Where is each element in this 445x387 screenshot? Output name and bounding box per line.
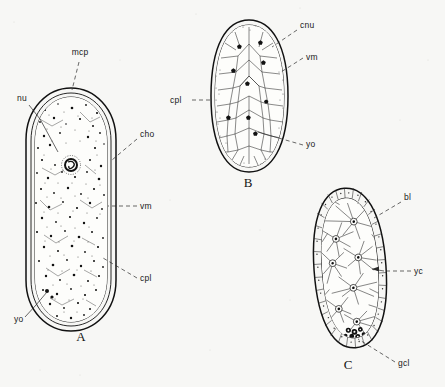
leader-gcl xyxy=(358,339,395,362)
panel-c xyxy=(309,186,392,353)
leader-yo-b xyxy=(282,139,303,145)
panel-b: cnu vm cpl yo B xyxy=(170,20,318,190)
leader-bl xyxy=(374,202,401,218)
label-gcl: gcl xyxy=(398,358,409,368)
panel-letter-b: B xyxy=(244,175,253,190)
panel-letter-c: C xyxy=(344,357,353,372)
label-yo-a: yo xyxy=(14,314,23,324)
panel-a: mcp nu cho vm cpl yo A xyxy=(14,47,154,344)
figure-plate: mcp nu cho vm cpl yo A xyxy=(0,0,445,387)
label-cho: cho xyxy=(140,129,154,139)
label-vm-b: vm xyxy=(306,52,318,62)
label-nu: nu xyxy=(17,93,27,103)
label-yo-b: yo xyxy=(306,139,315,149)
label-yc: yc xyxy=(414,266,423,276)
label-cpl-a: cpl xyxy=(140,273,151,283)
label-mcp: mcp xyxy=(72,47,89,57)
label-cnu: cnu xyxy=(300,20,314,30)
leader-mcp xyxy=(72,62,79,90)
label-vm-a: vm xyxy=(140,201,152,211)
leader-cnu xyxy=(272,30,297,47)
label-cpl-b: cpl xyxy=(170,95,181,105)
panel-a-stipple xyxy=(30,95,112,325)
leader-cpl xyxy=(103,258,137,278)
label-bl: bl xyxy=(404,192,411,202)
panel-letter-a: A xyxy=(76,329,86,344)
